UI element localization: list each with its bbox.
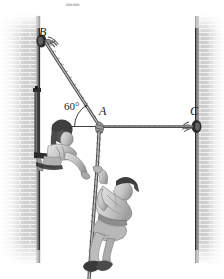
rope-a-to-c — [99, 125, 192, 128]
figure-canvas: ▂▂ B A C 60° — [0, 0, 224, 279]
right-wall — [195, 14, 224, 265]
statics-figure — [0, 0, 224, 279]
label-point-a: A — [99, 105, 106, 117]
person-man-on-rope — [83, 166, 139, 272]
person-woman-on-ledge — [36, 120, 90, 180]
rope-b-to-a — [46, 43, 100, 126]
left-wall — [0, 14, 40, 265]
label-point-b: B — [39, 26, 46, 38]
top-crop-mark: ▂▂ — [66, 0, 79, 6]
label-point-c: C — [190, 105, 198, 117]
label-angle-60: 60° — [64, 101, 79, 112]
